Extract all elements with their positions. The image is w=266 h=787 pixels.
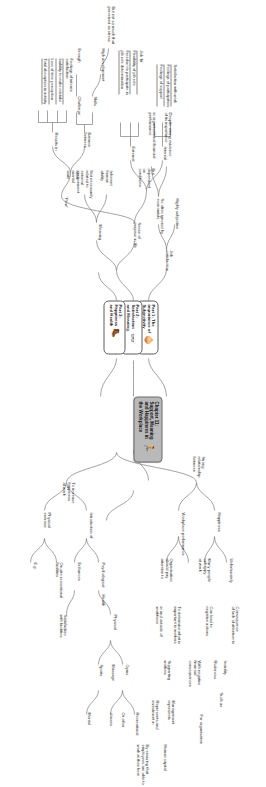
mindmap-canvas: Chapter 11: Support, Meaning and Happine… — [0, 0, 266, 787]
label-eg[interactable]: E.g. — [32, 562, 36, 569]
label-consequence-lack-attention[interactable]: Consequence of lack of attention to — [229, 606, 238, 644]
leaf-skills[interactable]: Skills — [92, 96, 96, 106]
label-physical-2[interactable]: Physical — [112, 614, 116, 629]
leaf-freedom-to-participate[interactable]: Freedom to participate in job role deter… — [118, 50, 128, 94]
leaf-happiness[interactable]: Happiness — [216, 512, 220, 531]
label-gyms[interactable]: Gyms — [124, 664, 128, 675]
branch-flow[interactable]: "Flow" — [63, 196, 67, 208]
onion-icon: 🧅 — [143, 334, 151, 344]
leaf-feelings-of-support[interactable]: Feelings of support — [156, 64, 162, 106]
leaf-flexibility-of-job-role[interactable]: Flexibility of job role — [129, 50, 135, 94]
label-psychological[interactable]: Psychological — [100, 562, 104, 587]
leaf-loss-of-time-perception[interactable]: Loss of time perception — [48, 58, 54, 104]
label-enhances[interactable]: Enhances — [76, 562, 80, 580]
label-such-as[interactable]: Such as — [218, 692, 222, 707]
external-items: Job 'fit' Flexibility of job role Freedo… — [118, 50, 142, 94]
label-or-other[interactable]: Or other — [120, 712, 124, 727]
part3-title: Part 3: Happiness and Health — [107, 304, 122, 326]
label-satisfaction-with-facilities[interactable]: Satisfaction with facilities — [57, 614, 66, 637]
branch-organisation-attention[interactable]: Organisation should pay attention to — [159, 558, 172, 581]
label-results-in[interactable]: Results in — [53, 132, 57, 150]
label-negative-financial-consequences[interactable]: With negative financial consequences — [187, 660, 200, 686]
label-sense-of-purpose[interactable]: Sense of purpose in life — [131, 222, 140, 248]
label-external[interactable]: External — [130, 146, 134, 161]
label-highly-subjective[interactable]: Highly subjective — [174, 198, 178, 229]
leaf-total-absorption[interactable]: Total absorption in activity — [41, 58, 47, 104]
leaf-rudeness[interactable]: Rudeness — [212, 660, 216, 678]
leaf-enough[interactable]: Enough — [76, 48, 80, 62]
label-management-represents[interactable]: Management represents — [165, 700, 174, 724]
label-in-and-outside-workforce[interactable]: in and outside of workforce — [153, 606, 162, 636]
boot-icon: 🥾 — [110, 328, 118, 338]
label-massage[interactable]: Massage — [110, 664, 114, 681]
leaf-feelings-of-participation[interactable]: Feelings of participation — [163, 64, 169, 106]
label-ideal-mental-state[interactable]: Ideal mental state — [65, 170, 78, 182]
leaf-feelings-intense-satisfaction[interactable]: Feelings of intense satisfaction — [62, 58, 72, 104]
binoculars-icon: 👓 — [127, 332, 135, 342]
mindmap-frame: Chapter 11: Support, Meaning and Happine… — [0, 0, 266, 787]
label-balance-between[interactable]: Balance between — [81, 132, 90, 147]
runner-icon: 🏃 — [143, 441, 152, 452]
branch-increase-happiness[interactable]: To increase happiness at work — [61, 482, 74, 503]
leaf-high-development[interactable]: High development — [100, 48, 104, 81]
leaf-satisfaction-with-work[interactable]: Satisfaction with work — [170, 64, 176, 106]
label-human-capital[interactable]: Human capital — [162, 744, 166, 770]
label-onsite-recreational-facilities[interactable]: On-site recreational facilities — [53, 562, 62, 598]
leaf-workplace-performance[interactable]: Workplace performance — [180, 512, 184, 555]
label-unfortunately[interactable]: Unfortunately — [228, 558, 232, 582]
label-employees-work-best[interactable]: By ensuring that employees are able to w… — [135, 744, 148, 784]
label-physical-exercise[interactable]: Physical exercise — [41, 512, 50, 527]
branch-strong-relationship[interactable]: Strong relationship between — [191, 456, 204, 477]
leaf-job-fit[interactable]: Job 'fit' — [136, 50, 142, 94]
flow-results-items: Feelings of intense satisfaction Inabili… — [41, 58, 72, 104]
center-node-title: Chapter 11: Support, Meaning and Happine… — [137, 401, 158, 439]
leaf-challenge[interactable]: Challenge — [76, 96, 80, 114]
label-for-organisation[interactable]: For organisation — [198, 714, 202, 744]
label-sports[interactable]: Sports — [98, 664, 102, 676]
label-recreational[interactable]: Recreational — [134, 712, 138, 735]
leaf-organisational-financial-performance[interactable]: in organisational financial performance — [146, 112, 155, 158]
label-represents-investment[interactable]: Represents and investment in — [149, 700, 158, 729]
label-inherent-human-ability[interactable]: Inherent human ability — [99, 170, 112, 185]
label-introduction-of[interactable]: Introduction of — [88, 512, 92, 538]
branch-meaning[interactable]: Meaning — [97, 224, 101, 240]
internal-items: Satisfaction with work Feelings of parti… — [156, 64, 176, 106]
label-ignored-by-economists[interactable]: So often ignored by economists — [154, 198, 163, 234]
note-not-so-much-stress[interactable]: But not so much that perceived as stress — [105, 6, 114, 44]
part2-title: Part 2: Satisfaction and Meaning — [124, 304, 139, 330]
label-supporting-workers[interactable]: Supporting workers — [161, 660, 170, 680]
label-health[interactable]: Health — [100, 594, 104, 606]
label-mental[interactable]: Mental — [86, 712, 90, 724]
label-can-lead-negative-actions[interactable]: Can lead to negative actions — [203, 606, 212, 636]
center-node-chapter[interactable]: Chapter 11: Support, Meaning and Happine… — [133, 396, 162, 462]
label-internal[interactable]: Internal — [162, 146, 166, 160]
label-determine-important-workers[interactable]: To determine what is important to worker… — [171, 606, 180, 644]
label-classes[interactable]: classes — [108, 712, 112, 726]
label-many-people-unhappy[interactable]: Many people unhappy at work — [197, 558, 210, 581]
part3-node[interactable]: Part 3: Happiness and Health 🥾 — [103, 300, 125, 354]
branch-job-satisfaction[interactable]: Job satisfaction — [163, 250, 172, 270]
leaf-incivility[interactable]: Incivility — [222, 660, 226, 674]
leaf-inability-to-make-mistake[interactable]: Inability to make mistake — [55, 58, 61, 104]
label-but-dependent-on-conditions[interactable]: But dependent on conditions — [137, 168, 154, 187]
